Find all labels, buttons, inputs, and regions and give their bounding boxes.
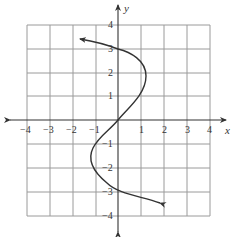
y-tick: −3: [102, 186, 113, 197]
y-tick: 4: [108, 19, 113, 30]
y-tick: 1: [108, 90, 113, 101]
x-tick-labels: −4 −3 −2 −1 1 2 3 4: [20, 124, 212, 135]
y-tick: −2: [102, 162, 113, 173]
x-tick: −1: [89, 124, 100, 135]
axes: [10, 5, 226, 232]
coordinate-plane: y x −4 −3 −2 −1 1 2 3 4 4 3 2 1 −1 −2 −3…: [0, 0, 231, 237]
x-tick: 3: [185, 124, 190, 135]
x-tick: −4: [20, 124, 31, 135]
y-tick: 2: [108, 67, 113, 78]
y-tick: −4: [102, 210, 113, 221]
x-tick: −2: [66, 124, 77, 135]
x-tick: −3: [43, 124, 54, 135]
x-tick: 2: [162, 124, 167, 135]
y-axis-label: y: [123, 2, 129, 14]
y-tick: −1: [102, 138, 113, 149]
x-axis-label: x: [224, 124, 230, 136]
x-tick: 1: [139, 124, 144, 135]
x-tick: 4: [207, 124, 212, 135]
y-tick: 3: [108, 43, 113, 54]
sideways-cubic-curve: [80, 39, 160, 203]
